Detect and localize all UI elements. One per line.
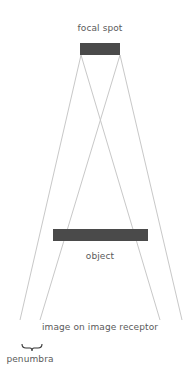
ray-left-cross [81,55,160,320]
ray-left-outer [20,55,81,320]
focal-spot-bar [80,43,120,55]
penumbra-brace-icon [22,344,42,351]
ray-right-outer [120,55,182,320]
penumbra-diagram: focal spot object image on image recepto… [0,0,195,383]
image-receptor-label: image on image receptor [42,322,158,332]
object-bar [53,229,148,241]
penumbra-label: penumbra [6,354,53,364]
ray-right-cross [40,55,120,320]
focal-spot-label: focal spot [78,23,123,33]
object-label: object [86,251,114,261]
